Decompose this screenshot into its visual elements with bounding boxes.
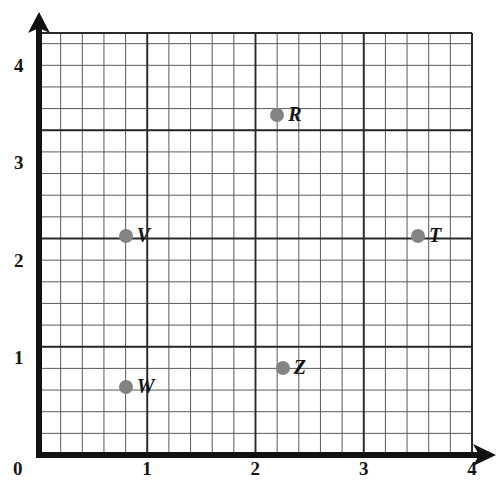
data-point-r[interactable] bbox=[270, 108, 284, 122]
data-point-label-v: V bbox=[137, 225, 150, 245]
data-point-z[interactable] bbox=[276, 361, 290, 375]
tick-label-y-3: 3 bbox=[14, 153, 24, 172]
grid-and-axes bbox=[0, 0, 502, 480]
tick-label-y-2: 2 bbox=[14, 251, 24, 270]
tick-label-origin: 0 bbox=[13, 459, 23, 478]
data-point-label-r: R bbox=[288, 104, 301, 124]
tick-label-x-1: 1 bbox=[142, 459, 152, 478]
coordinate-grid-figure: 012341234 RTVWZ bbox=[0, 0, 502, 480]
tick-label-x-3: 3 bbox=[359, 459, 369, 478]
tick-label-y-4: 4 bbox=[14, 56, 24, 75]
tick-label-x-4: 4 bbox=[467, 459, 477, 478]
data-point-label-z: Z bbox=[294, 357, 306, 377]
data-point-v[interactable] bbox=[119, 229, 133, 243]
tick-label-y-1: 1 bbox=[14, 348, 24, 367]
data-point-label-w: W bbox=[137, 376, 155, 396]
tick-label-x-2: 2 bbox=[251, 459, 261, 478]
data-point-w[interactable] bbox=[119, 380, 133, 394]
data-point-label-t: T bbox=[429, 225, 441, 245]
